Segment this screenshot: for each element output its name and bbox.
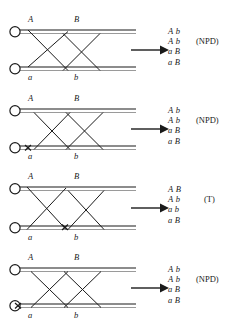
product-allele-left: a	[168, 57, 173, 67]
product-allele-left: a	[168, 136, 173, 146]
product-allele-right: b	[176, 26, 181, 36]
product-row: a b	[168, 204, 239, 214]
product-allele-right: b	[176, 264, 181, 274]
locus-label-lower-right: b	[74, 232, 78, 242]
product-allele-right: B	[175, 57, 181, 67]
tetrad-type-badge: (NPD)	[196, 36, 219, 46]
cropped-header-artifact	[0, 0, 239, 9]
panel-1: A B a b A b A b(NPD) a B a B	[0, 14, 239, 90]
product-allele-right: b	[176, 115, 181, 125]
locus-label-upper-left: A	[28, 14, 33, 24]
locus-label-lower-left: a	[28, 232, 32, 242]
product-allele-right: B	[175, 46, 181, 56]
product-allele-left: A	[168, 26, 174, 36]
product-allele-left: A	[168, 184, 174, 194]
product-row: a B	[168, 215, 239, 225]
product-allele-left: A	[168, 115, 174, 125]
product-allele-right: b	[176, 194, 181, 204]
product-row: a B	[168, 125, 239, 135]
panel-4: A B a b A b A b(NPD) a B a B	[0, 254, 239, 327]
product-row: A b(NPD)	[168, 274, 239, 284]
crossover-figure: A B a b A b A b(NPD) a B a B	[0, 0, 239, 327]
right-arrow-icon-1	[131, 44, 169, 56]
right-arrow-icon-3	[131, 202, 169, 214]
tetrad-type-badge: (NPD)	[196, 115, 219, 125]
product-row: a B	[168, 284, 239, 294]
product-row: a B	[168, 295, 239, 305]
product-allele-left: a	[168, 284, 173, 294]
locus-label-upper-left: A	[28, 171, 33, 181]
product-allele-right: b	[176, 36, 181, 46]
product-allele-right: B	[175, 295, 181, 305]
product-allele-left: A	[168, 274, 174, 284]
locus-label-upper-left: A	[28, 93, 33, 103]
locus-label-lower-right: b	[74, 72, 78, 82]
tetrad-type-badge: (T)	[204, 194, 215, 204]
chromosome-diagram-3: A B a b	[8, 172, 136, 240]
product-allele-right: b	[176, 274, 181, 284]
product-row: a B	[168, 57, 239, 67]
locus-label-lower-left: a	[28, 310, 32, 320]
product-list-3: A B A b(T) a b a B	[168, 184, 239, 225]
product-row: a B	[168, 136, 239, 146]
right-arrow-icon-4	[131, 282, 169, 294]
product-allele-right: b	[175, 204, 180, 214]
product-list-1: A b A b(NPD) a B a B	[168, 26, 239, 67]
product-allele-left: A	[168, 105, 174, 115]
product-row: A b(NPD)	[168, 115, 239, 125]
locus-label-upper-right: B	[74, 93, 79, 103]
product-allele-left: A	[168, 194, 174, 204]
product-allele-left: A	[168, 36, 174, 46]
tetrad-type-badge: (NPD)	[196, 274, 219, 284]
product-allele-right: B	[176, 184, 182, 194]
product-allele-left: a	[168, 125, 173, 135]
product-row: A b	[168, 264, 239, 274]
product-allele-right: B	[175, 215, 181, 225]
product-allele-right: B	[175, 136, 181, 146]
product-row: A b(NPD)	[168, 36, 239, 46]
product-allele-left: a	[168, 46, 173, 56]
chromosome-diagram-1: A B a b	[8, 14, 136, 82]
locus-label-lower-left: a	[28, 72, 32, 82]
product-row: A b(T)	[168, 194, 239, 204]
product-row: A B	[168, 184, 239, 194]
locus-label-lower-right: b	[74, 310, 78, 320]
chromosome-diagram-4: A B a b	[8, 254, 136, 322]
panel-2: A B a b A b A b(NPD) a B a B	[0, 93, 239, 169]
product-allele-right: B	[175, 125, 181, 135]
panel-3: A B a b A B A b(T) a b a B	[0, 172, 239, 250]
product-allele-left: A	[168, 264, 174, 274]
right-arrow-icon-2	[131, 123, 169, 135]
locus-label-upper-right: B	[74, 171, 79, 181]
chromosome-diagram-2: A B a b	[8, 93, 136, 161]
locus-label-lower-right: b	[74, 151, 78, 161]
product-allele-left: a	[168, 204, 173, 214]
locus-label-upper-right: B	[74, 252, 79, 262]
product-allele-right: B	[175, 284, 181, 294]
locus-label-upper-right: B	[74, 14, 79, 24]
product-allele-left: a	[168, 295, 173, 305]
product-list-4: A b A b(NPD) a B a B	[168, 264, 239, 305]
product-allele-right: b	[176, 105, 181, 115]
product-row: a B	[168, 46, 239, 56]
locus-label-lower-left: a	[28, 151, 32, 161]
product-row: A b	[168, 105, 239, 115]
product-list-2: A b A b(NPD) a B a B	[168, 105, 239, 146]
product-allele-left: a	[168, 215, 173, 225]
product-row: A b	[168, 26, 239, 36]
locus-label-upper-left: A	[28, 252, 33, 262]
